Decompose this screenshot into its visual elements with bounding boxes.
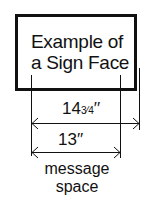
message-space-caption: message space [38,160,116,196]
overall-unit: ′′ [94,99,100,118]
message-dimension-label: 13′′ [58,131,83,148]
caption-line-1: message [38,160,116,178]
overall-fraction: 3⁄4 [81,105,94,116]
overall-dimension-label: 143⁄4′′ [62,100,100,119]
caption-line-2: space [38,178,116,196]
overall-whole: 14 [62,99,81,118]
